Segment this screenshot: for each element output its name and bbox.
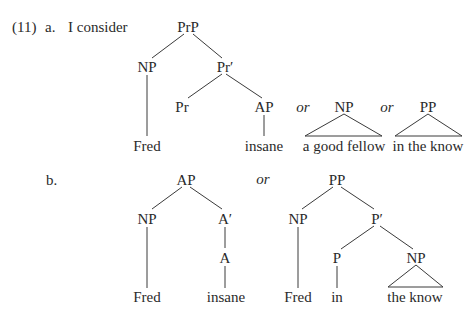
lead-text: I consider — [68, 20, 128, 35]
part-b-label: b. — [46, 173, 57, 188]
node-a-bar: A′ — [218, 212, 232, 227]
node-np-complement: NP — [406, 251, 425, 266]
node-np-spec: NP — [137, 60, 156, 75]
or-connector: or — [380, 100, 393, 115]
part-a-label: a. — [45, 20, 55, 35]
example-number: (11) — [12, 20, 36, 35]
node-p-bar: P′ — [371, 212, 383, 227]
or-connector: or — [256, 172, 269, 187]
node-pp-alt: PP — [420, 100, 437, 115]
node-p: P — [333, 251, 341, 266]
node-np-alt: NP — [334, 100, 353, 115]
node-pp-root: PP — [329, 173, 346, 188]
leaf-the-know: the know — [387, 290, 442, 305]
leaf-fred: Fred — [284, 290, 312, 305]
node-np-spec: NP — [137, 212, 156, 227]
leaf-insane: insane — [245, 139, 283, 154]
leaf-in: in — [331, 290, 343, 305]
node-pr: Pr — [175, 100, 188, 115]
node-ap-root: AP — [176, 173, 195, 188]
node-np-spec: NP — [288, 212, 307, 227]
node-a: A — [220, 251, 231, 266]
or-connector: or — [296, 100, 309, 115]
leaf-fred: Fred — [133, 290, 161, 305]
leaf-a-good-fellow: a good fellow — [303, 139, 385, 154]
leaf-insane: insane — [207, 290, 245, 305]
node-pr-bar: Pr′ — [217, 60, 234, 75]
tree-branches — [0, 0, 474, 309]
leaf-fred: Fred — [133, 139, 161, 154]
node-prp: PrP — [177, 20, 199, 35]
leaf-in-the-know: in the know — [393, 139, 464, 154]
syntax-tree-figure: (11) a. I consider PrP NP Pr′ Pr AP Fred… — [0, 0, 474, 309]
node-ap: AP — [254, 100, 273, 115]
